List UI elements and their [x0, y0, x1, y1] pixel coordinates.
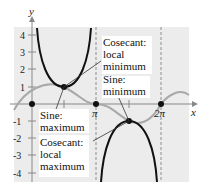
- svg-text:maximum: maximum: [40, 160, 85, 172]
- svg-text:minimum: minimum: [103, 85, 146, 97]
- x-axis-label: x: [190, 106, 196, 118]
- annotation-sine-minimum: Sine: minimum: [102, 73, 150, 98]
- annotation-cosecant-local-maximum: Cosecant: local maximum: [39, 135, 89, 177]
- svg-text:local: local: [40, 148, 61, 160]
- x-tick-2pi: 2π: [154, 107, 166, 119]
- y-tick-neg2: -2: [13, 133, 21, 144]
- y-tick-neg1: -1: [13, 116, 21, 127]
- y-axis-label: y: [28, 5, 34, 17]
- annotation-cosecant-local-minimum: Cosecant: local minimum: [102, 36, 152, 74]
- y-tick-2: 2: [20, 64, 25, 75]
- svg-text:Sine:: Sine:: [103, 73, 126, 85]
- x-tick-pi: π: [92, 107, 98, 119]
- y-tick-1: 1: [20, 82, 25, 93]
- svg-text:Cosecant:: Cosecant:: [40, 136, 83, 148]
- svg-text:maximum: maximum: [40, 121, 85, 133]
- svg-text:Sine:: Sine:: [40, 109, 63, 121]
- y-tick-neg4: -4: [13, 168, 21, 179]
- svg-text:Cosecant:: Cosecant:: [103, 36, 146, 48]
- annotation-sine-maximum: Sine: maximum: [39, 109, 89, 133]
- sine-cosecant-graph: 4 3 2 1 -1 -2 -3 -4 π 2π y x Cosecant: l…: [0, 0, 200, 187]
- y-tick-4: 4: [20, 30, 25, 41]
- point-origin: [29, 101, 35, 107]
- svg-text:local: local: [103, 48, 124, 60]
- y-tick-neg3: -3: [13, 150, 21, 161]
- svg-text:minimum: minimum: [103, 60, 146, 72]
- y-tick-3: 3: [20, 47, 25, 58]
